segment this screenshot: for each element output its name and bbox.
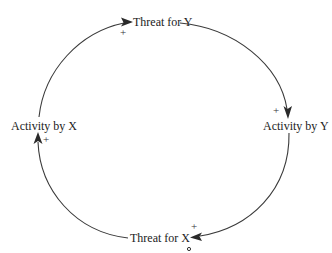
small-circle-marker-icon <box>187 247 190 250</box>
node-threat-for-y: Threat for Y <box>133 15 193 29</box>
polarity-sign: + <box>273 104 279 116</box>
link-threat-y-to-activity-y: + <box>180 23 292 119</box>
link-threat-x-to-activity-x: + <box>34 132 129 238</box>
node-activity-by-y: Activity by Y <box>263 119 329 133</box>
link-activity-x-to-threat-y: + <box>39 18 133 118</box>
link-activity-y-to-threat-x: + <box>190 133 289 241</box>
causal-loop-diagram: + + + + Threat for Y Activity by Y Threa… <box>0 0 332 253</box>
arrowhead-icon <box>190 233 202 242</box>
node-threat-for-x: Threat for X <box>130 231 190 245</box>
arrowhead-icon <box>284 106 293 119</box>
polarity-sign: + <box>191 220 197 232</box>
node-activity-by-x: Activity by X <box>11 119 77 133</box>
polarity-sign: + <box>120 26 126 38</box>
polarity-sign: + <box>43 133 49 145</box>
